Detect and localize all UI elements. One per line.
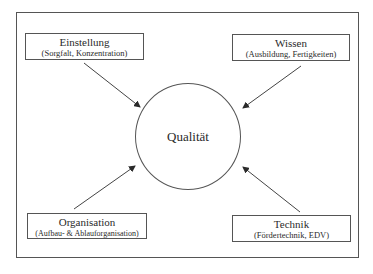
factor-subtitle: (Fördertechnik, EDV) bbox=[233, 231, 350, 241]
factor-subtitle: (Sorgfalt, Konzentration) bbox=[26, 49, 143, 59]
factor-title: Organisation bbox=[28, 216, 146, 229]
factor-subtitle: (Ausbildung, Fertigkeiten) bbox=[233, 50, 349, 60]
factor-title: Einstellung bbox=[26, 36, 143, 49]
factor-box-technik: Technik (Fördertechnik, EDV) bbox=[232, 215, 351, 242]
factor-box-wissen: Wissen (Ausbildung, Fertigkeiten) bbox=[232, 34, 350, 61]
arrow-organisation bbox=[74, 166, 135, 209]
arrow-wissen bbox=[243, 66, 301, 108]
center-label: Qualität bbox=[167, 129, 209, 145]
arrow-einstellung bbox=[84, 63, 140, 107]
factor-box-einstellung: Einstellung (Sorgfalt, Konzentration) bbox=[25, 33, 144, 60]
arrow-technik bbox=[243, 167, 300, 212]
factor-box-organisation: Organisation (Aufbau- & Ablauforganisati… bbox=[27, 213, 147, 239]
quality-circle: Qualität bbox=[135, 83, 241, 190]
factor-title: Wissen bbox=[233, 37, 349, 50]
factor-title: Technik bbox=[233, 218, 350, 231]
factor-subtitle: (Aufbau- & Ablauforganisation) bbox=[28, 229, 146, 238]
